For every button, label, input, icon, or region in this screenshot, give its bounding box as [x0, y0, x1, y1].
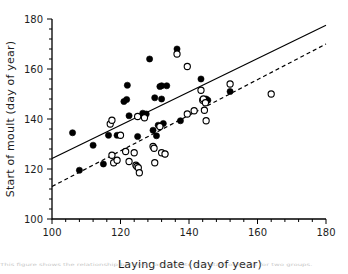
scatter-plot-canvas: 100120140160180100120140160180 Laying da…	[0, 0, 348, 274]
data-point-filled	[100, 161, 106, 167]
data-point-filled	[198, 76, 204, 82]
data-point-open	[126, 158, 132, 164]
x-tick-label: 100	[42, 227, 61, 238]
data-point-open	[157, 123, 163, 129]
data-point-open	[227, 81, 233, 87]
ticks-layer	[47, 19, 326, 224]
x-tick-label: 160	[248, 227, 267, 238]
data-point-open	[117, 132, 123, 138]
data-point-open	[184, 111, 190, 117]
y-tick-label: 140	[24, 114, 43, 125]
data-point-open	[114, 157, 120, 163]
data-point-open	[162, 151, 168, 157]
data-point-open	[141, 115, 147, 121]
data-point-open	[184, 63, 190, 69]
y-axis-title: Start of moult (day of year)	[4, 41, 17, 197]
data-point-filled	[177, 118, 183, 124]
data-point-filled	[69, 130, 75, 136]
data-point-open	[152, 160, 158, 166]
data-point-open	[191, 108, 197, 114]
data-point-filled	[152, 95, 158, 101]
data-point-open	[123, 148, 129, 154]
data-point-filled	[124, 82, 130, 88]
data-point-open	[203, 118, 209, 124]
data-point-open	[268, 91, 274, 97]
data-point-filled	[147, 56, 153, 62]
data-point-open	[198, 87, 204, 93]
data-point-filled	[105, 132, 111, 138]
data-point-filled	[150, 127, 156, 133]
y-tick-label: 160	[24, 64, 43, 75]
data-point-open	[136, 170, 142, 176]
y-tick-label: 180	[24, 14, 43, 25]
data-point-filled	[159, 96, 165, 102]
data-point-open	[109, 152, 115, 158]
data-point-open	[135, 113, 141, 119]
data-point-open	[201, 107, 207, 113]
data-point-open	[174, 51, 180, 57]
x-tick-label: 120	[111, 227, 130, 238]
solid-regression-line	[52, 25, 326, 158]
data-point-filled	[164, 83, 170, 89]
figure-caption-text: This figure shows the relationship betwe…	[0, 262, 348, 267]
data-point-filled	[126, 113, 132, 119]
data-point-open	[151, 145, 157, 151]
data-point-filled	[227, 88, 233, 94]
data-point-filled	[90, 142, 96, 148]
figure-caption: This figure shows the relationship betwe…	[0, 262, 348, 274]
y-tick-label: 120	[24, 164, 43, 175]
data-point-open	[109, 117, 115, 123]
y-tick-label: 100	[24, 214, 43, 225]
x-tick-label: 180	[316, 227, 335, 238]
axes-layer	[52, 19, 326, 219]
x-tick-label: 140	[179, 227, 198, 238]
data-point-filled	[135, 133, 141, 139]
regression-lines-layer	[52, 25, 326, 186]
data-point-filled	[124, 96, 130, 102]
scatter-plot-figure: 100120140160180100120140160180 Laying da…	[0, 0, 348, 274]
data-point-open	[131, 150, 137, 156]
data-point-filled	[76, 167, 82, 173]
data-point-open	[202, 100, 208, 106]
data-point-filled	[153, 133, 159, 139]
